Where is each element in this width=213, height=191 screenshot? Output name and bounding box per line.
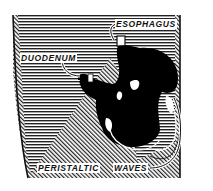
stomach-diagram — [0, 0, 213, 191]
esophagus-tube — [117, 36, 125, 46]
label-duodenum: DUODENUM — [20, 53, 77, 63]
label-esophagus: ESOPHAGUS — [115, 19, 177, 29]
label-peristaltic: PERISTALTIC — [37, 163, 100, 173]
label-waves: WAVES — [113, 163, 148, 173]
